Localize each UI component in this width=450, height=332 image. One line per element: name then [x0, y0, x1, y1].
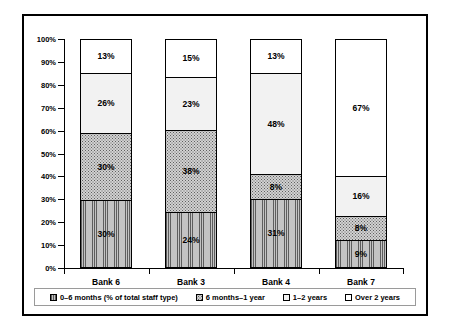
x-axis-tick: [234, 268, 235, 274]
bar-segment-over-2-years[interactable]: 13%: [250, 39, 302, 74]
x-axis-category-label-bank-3: Bank 3: [177, 277, 205, 287]
bar-segment-value: 48%: [267, 120, 284, 129]
bar-segment-0-6-months[interactable]: 30%: [80, 200, 132, 268]
bar-segment-value: 31%: [267, 229, 284, 238]
y-axis-label-50: 50%: [41, 149, 56, 158]
stacked-bar-bank-3[interactable]: 15% 23% 38% 24%: [165, 39, 217, 268]
y-axis-label-100: 100%: [37, 35, 56, 44]
legend-item-over-2-years[interactable]: Over 2 years: [345, 293, 400, 302]
y-axis-tick: [58, 222, 64, 223]
legend-item-label: 0–6 months (% of total staff type): [60, 293, 178, 302]
y-axis-tick: [58, 176, 64, 177]
bar-segment-6-months-1-year[interactable]: 8%: [250, 174, 302, 200]
y-axis-label-10: 10%: [41, 241, 56, 250]
bar-segment-6-months-1-year[interactable]: 8%: [335, 216, 387, 242]
bar-segment-1-2-years[interactable]: 23%: [165, 77, 217, 131]
bar-segment-0-6-months[interactable]: 24%: [165, 212, 217, 268]
bar-segment-over-2-years[interactable]: 15%: [165, 39, 217, 78]
legend-item-label: 6 months–1 year: [206, 293, 265, 302]
bar-segment-1-2-years[interactable]: 16%: [335, 176, 387, 217]
bar-segment-value: 38%: [182, 167, 199, 176]
y-axis-tick: [58, 39, 64, 40]
y-axis-label-40: 40%: [41, 172, 56, 181]
y-axis-tick: [58, 108, 64, 109]
y-axis-label-30: 30%: [41, 195, 56, 204]
legend-item-label: Over 2 years: [355, 293, 400, 302]
bar-segment-value: 30%: [97, 163, 114, 172]
bar-segment-value: 9%: [355, 250, 367, 259]
plot-area: 100% 90% 80% 70% 60% 50% 40% 30% 20% 10%…: [64, 39, 404, 268]
x-axis-tick: [64, 268, 65, 274]
bar-segment-value: 8%: [355, 224, 367, 233]
bar-segment-6-months-1-year[interactable]: 30%: [80, 133, 132, 201]
legend-swatch-icon: [283, 294, 290, 301]
y-axis-label-90: 90%: [41, 57, 56, 66]
bar-segment-value: 26%: [97, 99, 114, 108]
y-axis-tick: [58, 131, 64, 132]
legend-item-6-months-1-year[interactable]: 6 months–1 year: [196, 293, 265, 302]
y-axis-tick: [58, 85, 64, 86]
bar-segment-over-2-years[interactable]: 13%: [80, 39, 132, 74]
bar-segment-value: 15%: [182, 54, 199, 63]
y-axis-tick: [58, 154, 64, 155]
bar-segment-value: 8%: [270, 183, 282, 192]
bar-segment-0-6-months[interactable]: 31%: [250, 199, 302, 268]
x-axis-category-label-bank-4: Bank 4: [262, 277, 290, 287]
chart-figure-frame: 100% 90% 80% 70% 60% 50% 40% 30% 20% 10%…: [22, 14, 428, 316]
y-axis-tick: [58, 245, 64, 246]
legend-item-label: 1–2 years: [293, 293, 327, 302]
y-axis-tick: [58, 62, 64, 63]
bar-segment-value: 16%: [352, 192, 369, 201]
bar-segment-value: 23%: [182, 100, 199, 109]
x-axis-category-label-bank-7: Bank 7: [347, 277, 375, 287]
y-axis-label-60: 60%: [41, 126, 56, 135]
bar-segment-1-2-years[interactable]: 26%: [80, 73, 132, 133]
bar-segment-0-6-months[interactable]: 9%: [335, 240, 387, 268]
x-axis-tick: [403, 268, 404, 274]
y-axis-tick: [58, 199, 64, 200]
bar-segment-value: 67%: [352, 104, 369, 113]
y-axis-label-70: 70%: [41, 103, 56, 112]
bar-segment-value: 30%: [97, 230, 114, 239]
chart-legend: 0–6 months (% of total staff type) 6 mon…: [34, 288, 416, 306]
x-axis-category-label-bank-6: Bank 6: [92, 277, 120, 287]
stacked-bar-bank-4[interactable]: 13% 48% 8% 31%: [250, 39, 302, 268]
x-axis-tick: [149, 268, 150, 274]
legend-item-1-2-years[interactable]: 1–2 years: [283, 293, 327, 302]
legend-swatch-icon: [50, 294, 57, 301]
legend-swatch-icon: [345, 294, 352, 301]
bar-segment-6-months-1-year[interactable]: 38%: [165, 130, 217, 213]
bar-segment-value: 24%: [182, 236, 199, 245]
x-axis-tick: [319, 268, 320, 274]
y-axis-label-0: 0%: [45, 264, 56, 273]
bar-segment-value: 13%: [97, 52, 114, 61]
legend-item-0-6-months[interactable]: 0–6 months (% of total staff type): [50, 293, 178, 302]
y-axis-line: [64, 39, 65, 268]
stacked-bar-bank-7[interactable]: 67% 16% 8% 9%: [335, 39, 387, 268]
legend-swatch-icon: [196, 294, 203, 301]
y-axis-label-80: 80%: [41, 80, 56, 89]
bar-segment-over-2-years[interactable]: 67%: [335, 39, 387, 177]
y-axis-label-20: 20%: [41, 218, 56, 227]
stacked-bar-bank-6[interactable]: 13% 26% 30% 30%: [80, 39, 132, 268]
bar-segment-value: 13%: [267, 52, 284, 61]
bar-segment-1-2-years[interactable]: 48%: [250, 73, 302, 175]
